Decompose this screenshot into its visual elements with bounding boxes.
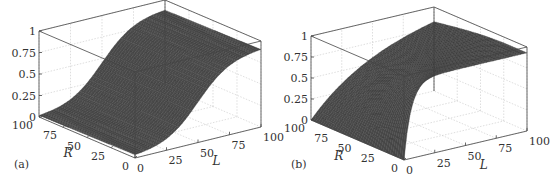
z-tick-label: 0.25: [284, 93, 309, 106]
z-tick-label: 1: [29, 25, 36, 38]
l-tick-label: 0: [137, 162, 144, 175]
l-tick-label: 100: [263, 131, 284, 144]
r-axis-label: R: [333, 149, 343, 163]
r-tick-label: 0: [391, 162, 398, 175]
surface-mesh: [39, 10, 261, 155]
r-tick-label: 100: [12, 119, 33, 132]
z-tick-label: 0.75: [284, 51, 309, 64]
l-tick-label: 25: [437, 157, 451, 170]
z-tick-label: 0.5: [19, 68, 37, 81]
l-tick-label: 100: [529, 135, 550, 148]
z-tick-label: 0.75: [12, 47, 37, 60]
l-tick-label: 25: [169, 154, 183, 167]
l-tick-label: 75: [232, 139, 246, 152]
l-axis-label: L: [479, 158, 488, 172]
surface-plot-b: 00.250.50.75102550751000255075100RL(b): [284, 7, 551, 177]
l-tick-label: 0: [406, 164, 413, 177]
l-axis-label: L: [212, 154, 221, 168]
surface-plots: 00.250.50.75102550751000255075100RL(a)00…: [0, 0, 554, 183]
r-tick-label: 25: [91, 150, 105, 163]
l-tick-label: 75: [498, 142, 512, 155]
surface-mesh: [311, 22, 527, 160]
panel-label: (b): [291, 158, 307, 171]
r-tick-label: 75: [314, 132, 328, 145]
z-tick-label: 0.25: [12, 90, 37, 103]
r-tick-label: 0: [122, 160, 129, 173]
panel-label: (a): [14, 158, 29, 171]
r-axis-label: R: [62, 146, 72, 160]
z-tick-label: 1: [301, 30, 308, 43]
r-tick-label: 25: [361, 152, 375, 165]
z-tick-label: 0.5: [291, 72, 309, 85]
r-tick-label: 100: [284, 122, 305, 135]
surface-plot-a: 00.250.50.75102550751000255075100RL(a): [12, 0, 285, 175]
r-tick-label: 75: [43, 129, 57, 142]
